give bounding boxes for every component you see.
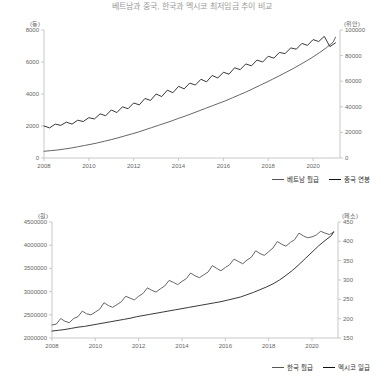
chart-page: 베트남과 중국, 한국과 멕시코 최저임금 추이 비교 200820102012… xyxy=(0,0,384,379)
svg-text:2010: 2010 xyxy=(89,343,103,349)
svg-text:6000: 6000 xyxy=(26,59,40,65)
legend-label: 베트남 월급 xyxy=(287,174,319,184)
svg-text:0: 0 xyxy=(345,155,349,161)
svg-text:3500000: 3500000 xyxy=(24,265,48,271)
svg-text:80000: 80000 xyxy=(345,53,362,59)
svg-text:2012: 2012 xyxy=(127,163,141,169)
svg-text:250: 250 xyxy=(343,296,354,302)
svg-text:3000000: 3000000 xyxy=(24,289,48,295)
svg-text:150: 150 xyxy=(343,335,354,341)
svg-text:400: 400 xyxy=(343,238,354,244)
svg-text:300: 300 xyxy=(343,277,354,283)
legend-item: 한국 월급 xyxy=(272,362,313,372)
svg-text:2500000: 2500000 xyxy=(24,312,48,318)
svg-text:4000: 4000 xyxy=(26,91,40,97)
svg-text:200: 200 xyxy=(343,316,354,322)
svg-text:(원): (원) xyxy=(38,212,48,219)
legend-swatch-icon xyxy=(272,367,284,368)
chart-legend-top: 베트남 월급중국 연봉 xyxy=(272,174,370,184)
legend-item: 베트남 월급 xyxy=(272,174,319,184)
svg-text:2000: 2000 xyxy=(26,123,40,129)
svg-text:2016: 2016 xyxy=(219,343,233,349)
svg-text:2000000: 2000000 xyxy=(24,335,48,341)
svg-text:2010: 2010 xyxy=(82,163,96,169)
svg-text:2020: 2020 xyxy=(305,343,319,349)
svg-text:2018: 2018 xyxy=(262,343,276,349)
svg-text:2012: 2012 xyxy=(132,343,146,349)
legend-label: 중국 연봉 xyxy=(344,174,370,184)
legend-swatch-icon xyxy=(323,367,335,368)
svg-text:40000: 40000 xyxy=(345,104,362,110)
svg-text:100000: 100000 xyxy=(345,27,366,33)
svg-text:2008: 2008 xyxy=(45,343,59,349)
svg-text:2018: 2018 xyxy=(262,163,276,169)
svg-text:4000000: 4000000 xyxy=(24,242,48,248)
svg-text:4500000: 4500000 xyxy=(24,219,48,225)
svg-text:450: 450 xyxy=(343,219,354,225)
legend-item: 중국 연봉 xyxy=(329,174,370,184)
svg-text:(동): (동) xyxy=(30,21,40,27)
legend-swatch-icon xyxy=(272,179,284,180)
svg-text:2008: 2008 xyxy=(37,163,51,169)
legend-label: 한국 월급 xyxy=(287,362,313,372)
svg-text:0: 0 xyxy=(36,155,40,161)
svg-text:8000: 8000 xyxy=(26,27,40,33)
legend-label: 멕시코 일급 xyxy=(338,362,370,372)
svg-text:350: 350 xyxy=(343,258,354,264)
svg-text:2014: 2014 xyxy=(172,163,186,169)
svg-text:2020: 2020 xyxy=(306,163,320,169)
svg-text:20000: 20000 xyxy=(345,129,362,135)
chart-panel-bottom: 2008201020122014201620182020200000025000… xyxy=(0,198,384,368)
svg-text:(위안): (위안) xyxy=(344,20,360,28)
chart-svg-bottom: 2008201020122014201620182020200000025000… xyxy=(0,198,384,368)
svg-text:(페소): (페소) xyxy=(342,212,358,220)
legend-item: 멕시코 일급 xyxy=(323,362,370,372)
svg-text:2014: 2014 xyxy=(175,343,189,349)
chart-panel-top: 2008201020122014201620182020020004000600… xyxy=(0,8,384,188)
svg-text:60000: 60000 xyxy=(345,78,362,84)
svg-text:2016: 2016 xyxy=(217,163,231,169)
chart-legend-bottom: 한국 월급멕시코 일급 xyxy=(272,362,370,372)
chart-svg-top: 2008201020122014201620182020020004000600… xyxy=(0,8,384,188)
legend-swatch-icon xyxy=(329,179,341,180)
